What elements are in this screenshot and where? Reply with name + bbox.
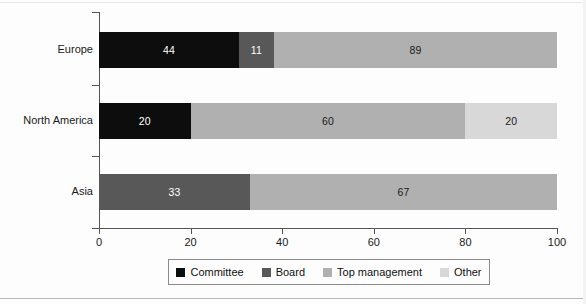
x-axis-tick — [557, 229, 558, 234]
bar-segment[interactable]: 20 — [99, 103, 191, 139]
legend-item[interactable]: Other — [440, 266, 482, 278]
x-axis-tick-label: 40 — [276, 236, 288, 248]
bar-row[interactable]: 3367 — [99, 174, 557, 210]
legend-swatch-icon — [262, 268, 271, 277]
legend-swatch-icon — [176, 268, 185, 277]
chart-legend: CommitteeBoardTop managementOther — [168, 259, 490, 285]
x-axis-tick — [99, 229, 100, 234]
bar-segment-value-label: 20 — [139, 115, 151, 127]
bar-segment-value-label: 60 — [322, 115, 334, 127]
x-axis-tick — [465, 229, 466, 234]
legend-item[interactable]: Board — [262, 266, 305, 278]
category-label: Asia — [0, 185, 93, 197]
bar-segment[interactable]: 20 — [465, 103, 557, 139]
x-axis-tick — [282, 229, 283, 234]
legend-item[interactable]: Committee — [176, 266, 243, 278]
bar-segment-value-label: 20 — [505, 115, 517, 127]
bar-row[interactable]: 206020 — [99, 103, 557, 139]
bar-segment[interactable]: 33 — [99, 174, 250, 210]
bar-segment-value-label: 89 — [409, 44, 421, 56]
bar-segment[interactable]: 60 — [191, 103, 466, 139]
x-axis-tick-label: 80 — [459, 236, 471, 248]
x-axis-tick-label: 100 — [548, 236, 566, 248]
x-axis-tick-label: 0 — [96, 236, 102, 248]
bar-segment-value-label: 33 — [169, 186, 181, 198]
stacked-bar-chart: 020406080100 EuropeNorth AmericaAsia 441… — [0, 0, 586, 304]
bar-row[interactable]: 441189 — [99, 32, 557, 68]
legend-label: Other — [454, 266, 482, 278]
x-axis-tick-label: 60 — [368, 236, 380, 248]
x-axis-tick — [191, 229, 192, 234]
bar-segment[interactable]: 67 — [250, 174, 557, 210]
bar-segment-value-label: 67 — [398, 186, 410, 198]
x-axis-line — [99, 228, 558, 229]
legend-label: Board — [276, 266, 305, 278]
category-label: Europe — [0, 43, 93, 55]
legend-label: Top management — [337, 266, 422, 278]
y-axis-tick — [92, 156, 99, 157]
bar-segment-value-label: 44 — [163, 44, 175, 56]
x-axis-tick-label: 20 — [184, 236, 196, 248]
legend-swatch-icon — [323, 268, 332, 277]
legend-item[interactable]: Top management — [323, 266, 422, 278]
legend-swatch-icon — [440, 268, 449, 277]
bar-segment[interactable]: 89 — [274, 32, 557, 68]
y-axis-tick — [92, 228, 99, 229]
category-label: North America — [0, 114, 93, 126]
bar-segment[interactable]: 11 — [239, 32, 274, 68]
bar-segment-value-label: 11 — [251, 44, 262, 56]
legend-label: Committee — [190, 266, 243, 278]
y-axis-tick — [92, 12, 99, 13]
y-axis-tick — [92, 85, 99, 86]
x-axis-tick — [374, 229, 375, 234]
bar-segment[interactable]: 44 — [99, 32, 239, 68]
